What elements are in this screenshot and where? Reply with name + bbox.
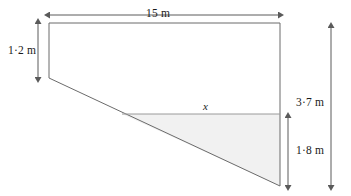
dimension-label-width: 15 m bbox=[146, 8, 170, 20]
dimension-label-total-height: 3·7 m bbox=[296, 97, 324, 109]
geometry-figure: 15 m 1·2 m 3·7 m 1·8 m x bbox=[0, 0, 351, 196]
dimension-label-left-height: 1·2 m bbox=[8, 45, 36, 57]
dimension-label-lower-height: 1·8 m bbox=[296, 145, 324, 157]
dimension-label-unknown-x: x bbox=[203, 101, 208, 112]
